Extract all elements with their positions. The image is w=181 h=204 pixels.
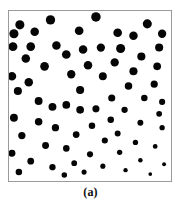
scatter-dot: [42, 142, 49, 149]
scatter-dot: [49, 103, 57, 111]
scatter-dot: [91, 12, 100, 21]
scatter-dot: [27, 158, 34, 165]
scatter-dot: [100, 164, 105, 169]
scatter-dot: [159, 99, 165, 105]
scatter-dot: [49, 164, 55, 170]
scatter-dot: [141, 95, 148, 102]
scatter-dot: [35, 97, 43, 105]
scatter-dot: [133, 140, 138, 145]
scatter-dot: [155, 44, 163, 52]
scatter-dot: [113, 28, 122, 37]
scatter-dot: [137, 120, 143, 126]
scatter-dot: [76, 86, 84, 94]
scatter-dot: [16, 169, 23, 176]
scatter-dot: [67, 70, 75, 78]
scatter-dot: [62, 50, 71, 59]
scatter-dot: [99, 72, 107, 80]
scatter-dot: [75, 26, 84, 35]
scatter-dot: [79, 45, 87, 54]
scatter-dot: [89, 122, 96, 129]
scatter-dot: [87, 151, 93, 157]
scatter-dot: [153, 62, 161, 70]
scatter-dot: [9, 72, 16, 81]
scatter-dot: [153, 144, 158, 149]
scatter-dot: [123, 168, 127, 172]
scatter-dot: [97, 43, 105, 51]
scatter-dot: [102, 137, 108, 143]
scatter-dot: [158, 30, 166, 38]
scatter-dot: [111, 58, 119, 66]
scatter-dot: [22, 54, 30, 63]
figure-caption: (a): [0, 184, 181, 200]
scatter-dot: [71, 160, 77, 166]
scatter-dot: [62, 172, 68, 178]
scatter-dot: [15, 20, 24, 29]
scatter-dot: [52, 124, 59, 131]
scatter-dot: [117, 150, 122, 155]
scatter-dot: [148, 172, 152, 176]
scatter-dot: [35, 118, 43, 126]
scatter-dot: [30, 28, 38, 36]
scatter-dot: [9, 150, 15, 157]
scatter-dot: [82, 170, 87, 175]
scatter-dot: [25, 78, 33, 87]
scatter-dot: [62, 101, 70, 109]
scatter-dot: [116, 44, 125, 53]
scatter-dot: [138, 158, 143, 163]
scatter-dot: [121, 107, 127, 113]
scatter-dot: [143, 19, 152, 28]
scatter-dot: [129, 67, 137, 75]
scatter-dot: [40, 62, 49, 71]
scatter-dot: [107, 116, 114, 123]
scatter-dot: [156, 111, 162, 117]
scatter-dot: [137, 52, 145, 60]
scatter-dot: [52, 41, 60, 50]
scatter-dot: [46, 15, 55, 24]
scatter-dot: [92, 105, 99, 112]
scatter-dot: [63, 145, 70, 152]
scatter-dot: [14, 87, 22, 95]
scatter-dot: [84, 61, 92, 70]
scatter-dot: [18, 132, 25, 139]
figure-container: (a): [0, 0, 181, 204]
scatter-dot: [151, 81, 158, 88]
scatter-dot: [125, 82, 133, 90]
scatter-dot: [129, 31, 137, 40]
scatter-dot: [9, 29, 18, 38]
scatter-dot: [9, 42, 17, 51]
scatter-plot-frame: [8, 10, 172, 182]
scatter-dot: [162, 162, 166, 166]
scatter-dot: [10, 114, 18, 122]
scatter-dot-layer: [9, 11, 171, 181]
scatter-dot: [115, 131, 121, 137]
scatter-dot: [73, 131, 80, 138]
scatter-dot: [26, 42, 35, 51]
scatter-dot: [108, 94, 115, 101]
scatter-dot: [76, 106, 84, 114]
scatter-dot: [159, 125, 164, 130]
